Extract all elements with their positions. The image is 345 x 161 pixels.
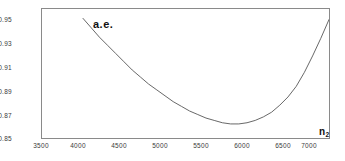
- y-tick-label: 0.93: [0, 41, 12, 48]
- chart-figure: 0.95 0.93 0.91 0.89 0.87 0.85 3500 4000 …: [0, 0, 345, 161]
- y-tick-label: 0.91: [0, 65, 12, 72]
- y-tick-label: 0.95: [0, 17, 12, 24]
- x-tick-label: 7000: [289, 143, 329, 150]
- x-tick-label: 5000: [140, 143, 180, 150]
- x-tick-label: 5500: [181, 143, 221, 150]
- curve-svg: [42, 9, 329, 138]
- x-tick-label: 4500: [99, 143, 139, 150]
- x-tick-label: 4000: [58, 143, 98, 150]
- x-axis-label: n2: [319, 127, 329, 137]
- x-tick-label: 3500: [21, 143, 61, 150]
- y-axis-label: a.e.: [93, 19, 113, 30]
- y-tick-label: 0.85: [0, 136, 12, 143]
- y-tick-label: 0.87: [0, 113, 12, 120]
- x-tick-label: 6000: [222, 143, 262, 150]
- data-series-curve: [83, 18, 329, 124]
- x-axis-label-base: n: [319, 126, 325, 137]
- plot-area: a.e. n2: [41, 8, 330, 139]
- y-tick-label: 0.89: [0, 89, 12, 96]
- x-axis-label-subscript: 2: [326, 131, 330, 138]
